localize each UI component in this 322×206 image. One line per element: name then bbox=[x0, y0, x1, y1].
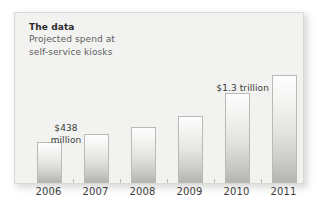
axis-tick bbox=[120, 179, 121, 183]
x-axis-label-2008: 2008 bbox=[123, 186, 163, 197]
axis-tick bbox=[167, 179, 168, 183]
bar-2006 bbox=[37, 142, 62, 183]
bar-2008 bbox=[131, 127, 156, 183]
chart-figure: The data Projected spend at self-service… bbox=[0, 0, 322, 206]
axis-tick bbox=[73, 179, 74, 183]
x-axis-labels: 200620072008200920102011 bbox=[14, 186, 304, 204]
bar-2010 bbox=[225, 93, 250, 183]
x-axis-label-2007: 2007 bbox=[76, 186, 116, 197]
axis-tick bbox=[214, 179, 215, 183]
x-axis-label-2009: 2009 bbox=[170, 186, 210, 197]
plot-area bbox=[15, 13, 304, 184]
annotation-2011: $1.3 trillion bbox=[165, 83, 269, 95]
annotation-2006: $438 million bbox=[35, 123, 97, 146]
bar-2009 bbox=[178, 116, 203, 183]
x-axis-label-2006: 2006 bbox=[29, 186, 69, 197]
x-axis-label-2010: 2010 bbox=[217, 186, 257, 197]
x-axis-label-2011: 2011 bbox=[264, 186, 304, 197]
axis-baseline bbox=[21, 183, 299, 184]
bar-2011 bbox=[272, 75, 297, 183]
chart-panel: The data Projected spend at self-service… bbox=[14, 12, 304, 184]
axis-tick bbox=[261, 179, 262, 183]
